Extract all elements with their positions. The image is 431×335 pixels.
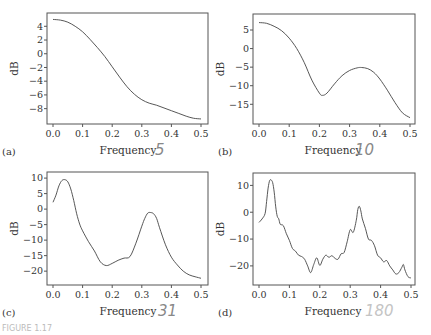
- series-line: [259, 180, 411, 278]
- y-tick-label: −10: [229, 80, 249, 91]
- x-tick-label: 0.1: [282, 289, 297, 300]
- series-line: [53, 19, 201, 119]
- y-tick-label: −5: [29, 219, 43, 230]
- y-tick-label: 2: [37, 34, 43, 45]
- panel-d: 0.00.10.20.30.40.5100−10−20dBFrequency(d…: [214, 173, 419, 320]
- x-tick-label: 0.2: [105, 289, 120, 300]
- handwritten-annotation: 10: [355, 141, 374, 159]
- y-tick-label: −20: [229, 260, 249, 271]
- y-tick-label: −6: [29, 89, 43, 100]
- panel-label: (b): [218, 146, 232, 157]
- plot-frame: [47, 13, 208, 124]
- x-tick-label: 0.4: [164, 128, 179, 139]
- x-tick-label: 0.5: [193, 128, 208, 139]
- y-tick-label: 0: [243, 43, 249, 54]
- x-axis-label: Frequency: [305, 305, 362, 317]
- x-tick-label: 0.3: [343, 289, 358, 300]
- x-tick-label: 0.0: [45, 128, 60, 139]
- x-axis-label: Frequency: [100, 144, 157, 156]
- y-tick-label: −5: [235, 61, 249, 72]
- series-line: [259, 23, 410, 118]
- x-axis-label: Frequency: [100, 305, 157, 317]
- x-tick-label: 0.1: [75, 128, 90, 139]
- y-tick-label: −4: [29, 75, 43, 86]
- x-tick-label: 0.5: [403, 289, 418, 300]
- x-tick-label: 0.0: [251, 289, 266, 300]
- y-tick-label: 0: [243, 207, 249, 218]
- x-tick-label: 0.2: [312, 128, 327, 139]
- x-axis-label: Frequency: [305, 144, 362, 156]
- handwritten-annotation: 5: [155, 141, 165, 159]
- panel-label: (c): [2, 307, 16, 318]
- x-tick-label: 0.1: [282, 128, 297, 139]
- y-tick-label: −10: [229, 233, 249, 244]
- x-tick-label: 0.2: [105, 128, 120, 139]
- y-tick-label: 5: [243, 24, 249, 35]
- y-tick-label: −20: [23, 265, 43, 276]
- plot-frame: [253, 14, 415, 124]
- handwritten-annotation: 180: [365, 302, 394, 320]
- y-tick-label: 0: [37, 203, 43, 214]
- panel-b: 0.00.10.20.30.40.550−5−10−15dBFrequency(…: [214, 14, 418, 159]
- y-tick-label: 10: [31, 172, 43, 183]
- y-tick-label: 0: [37, 48, 43, 59]
- x-tick-label: 0.3: [134, 128, 149, 139]
- y-tick-label: 10: [237, 180, 249, 191]
- y-tick-label: −2: [29, 62, 43, 73]
- panel-label: (d): [218, 307, 232, 318]
- y-tick-label: 5: [37, 188, 43, 199]
- x-tick-label: 0.4: [372, 128, 387, 139]
- x-tick-label: 0.0: [251, 128, 266, 139]
- figure-caption: FIGURE 1.17: [2, 324, 52, 333]
- y-tick-label: −10: [23, 234, 43, 245]
- x-tick-label: 0.5: [402, 128, 417, 139]
- y-tick-label: −15: [229, 99, 249, 110]
- x-tick-label: 0.5: [193, 289, 208, 300]
- panel-c: 0.00.10.20.30.40.51050−5−10−15−20dBFrequ…: [2, 172, 209, 320]
- y-axis-label: dB: [8, 221, 20, 236]
- x-tick-label: 0.3: [134, 289, 149, 300]
- panel-a: 0.00.10.20.30.40.5420−2−4−6−8dBFrequency…: [2, 13, 209, 159]
- plot-frame: [253, 173, 415, 285]
- y-axis-label: dB: [214, 221, 226, 236]
- y-tick-label: −8: [29, 103, 43, 114]
- x-tick-label: 0.4: [373, 289, 388, 300]
- y-tick-label: 4: [37, 21, 43, 32]
- handwritten-annotation: 31: [158, 302, 177, 320]
- y-axis-label: dB: [214, 61, 226, 76]
- y-axis-label: dB: [8, 61, 20, 76]
- figure-canvas: 0.00.10.20.30.40.5420−2−4−6−8dBFrequency…: [0, 0, 431, 335]
- x-tick-label: 0.3: [342, 128, 357, 139]
- x-tick-label: 0.4: [164, 289, 179, 300]
- panel-label: (a): [2, 146, 16, 157]
- x-tick-label: 0.1: [75, 289, 90, 300]
- series-line: [53, 180, 201, 279]
- x-tick-label: 0.2: [312, 289, 327, 300]
- y-tick-label: −15: [23, 250, 43, 261]
- x-tick-label: 0.0: [45, 289, 60, 300]
